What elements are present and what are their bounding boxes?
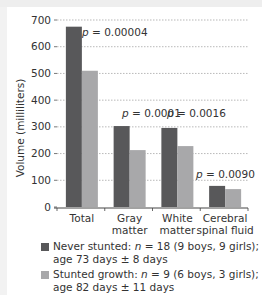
legend-label-age: age 82 days ± 11 days bbox=[53, 281, 174, 293]
n-symbol: n bbox=[141, 268, 148, 280]
p-value-label: p = 0.0016 bbox=[166, 107, 226, 119]
y-tick-label: 700 bbox=[31, 14, 51, 26]
bar-never-stunted bbox=[114, 126, 130, 207]
x-axis bbox=[54, 208, 248, 211]
y-tick-label: 600 bbox=[31, 40, 51, 52]
y-axis-label: Volume (milliliters) bbox=[14, 79, 26, 178]
bar-never-stunted bbox=[161, 128, 177, 207]
y-tick-label: 0 bbox=[44, 201, 51, 213]
y-tick-label: 500 bbox=[31, 67, 51, 79]
legend-label-count: = 9 (6 boys, 3 girls); bbox=[148, 268, 259, 280]
bar-stunted-growth bbox=[82, 71, 98, 207]
y-tick-label: 100 bbox=[31, 174, 51, 186]
bar-stunted-growth bbox=[130, 150, 146, 207]
category-label: matter bbox=[160, 224, 196, 236]
category-label: spinal fluid bbox=[197, 224, 254, 236]
category-label: Cerebral bbox=[203, 212, 248, 224]
legend-item-stunted-growth: Stunted growth: n = 9 (6 boys, 3 girls);… bbox=[41, 268, 261, 294]
category-label: matter bbox=[112, 224, 148, 236]
legend-item-never-stunted: Never stunted: n = 18 (9 boys, 9 girls);… bbox=[41, 240, 261, 266]
y-tick-label: 200 bbox=[31, 147, 51, 159]
legend-label-count: = 18 (9 boys, 9 girls); bbox=[141, 240, 259, 252]
legend: Never stunted: n = 18 (9 boys, 9 girls);… bbox=[41, 240, 261, 295]
legend-label-age: age 73 days ± 8 days bbox=[53, 253, 168, 265]
bar-chart: 0100200300400500600700 TotalGraymatterWh… bbox=[0, 0, 262, 240]
legend-swatch-light bbox=[41, 271, 49, 279]
y-tick-label: 400 bbox=[31, 94, 51, 106]
bar-never-stunted bbox=[66, 27, 82, 207]
x-axis-labels: TotalGraymatterWhitematterCerebralspinal… bbox=[69, 212, 254, 236]
category-label: Total bbox=[69, 212, 95, 224]
bar-never-stunted bbox=[209, 186, 225, 207]
category-label: Gray bbox=[117, 212, 142, 224]
y-tick-label: 300 bbox=[31, 120, 51, 132]
bar-stunted-growth bbox=[177, 146, 193, 207]
legend-swatch-dark bbox=[41, 243, 49, 251]
legend-label: Stunted growth: bbox=[53, 268, 141, 280]
category-label: White bbox=[162, 212, 193, 224]
bar-stunted-growth bbox=[225, 189, 241, 207]
p-value-label: p = 0.00004 bbox=[81, 26, 148, 38]
p-value-label: p = 0.0090 bbox=[195, 168, 255, 180]
legend-label: Never stunted: bbox=[53, 240, 135, 252]
y-axis-ticks: 0100200300400500600700 bbox=[31, 14, 57, 213]
